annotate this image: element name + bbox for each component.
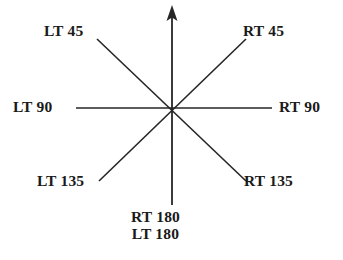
diagram-canvas: LT 45 RT 45 LT 90 RT 90 LT 135 RT 135 RT… <box>0 0 343 260</box>
label-lt-135: LT 135 <box>37 172 84 189</box>
label-180-group: RT 180 LT 180 <box>131 208 180 242</box>
label-rt-180: RT 180 <box>131 208 180 225</box>
label-lt-45: LT 45 <box>44 22 83 39</box>
label-rt-90: RT 90 <box>279 98 320 115</box>
label-lt-90: LT 90 <box>13 98 52 115</box>
label-rt-45: RT 45 <box>243 22 284 39</box>
label-rt-135: RT 135 <box>244 172 293 189</box>
label-lt-180: LT 180 <box>131 225 180 242</box>
